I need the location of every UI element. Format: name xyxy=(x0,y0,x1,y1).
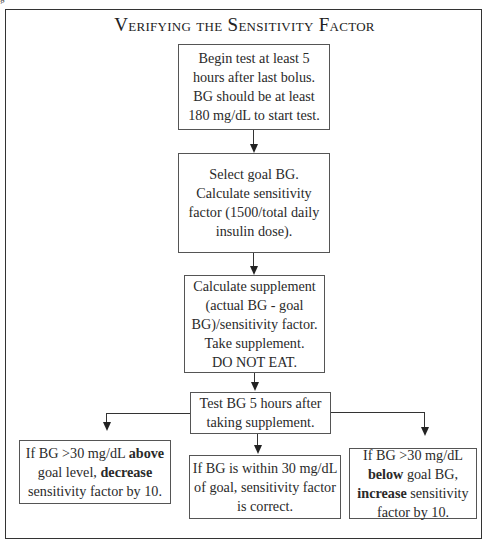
outcome-text: sensitivity xyxy=(407,485,469,501)
step-text-line: Calculate sensitivity xyxy=(189,184,320,203)
step-text-line: Calculate supplement xyxy=(191,277,317,296)
step-text-line: factor (1500/total daily xyxy=(189,203,320,222)
outcome-emphasis: decrease xyxy=(100,464,152,480)
step-text-line: DO NOT EAT. xyxy=(191,353,317,372)
outcome-text-line: increase sensitivity xyxy=(357,484,468,503)
outcome-text-line: below goal BG, xyxy=(357,465,468,484)
outcome-above-goal: If BG >30 mg/dL above goal level, decrea… xyxy=(19,440,171,504)
outcome-text-line: If BG >30 mg/dL xyxy=(357,446,468,465)
step-text-line: Take supplement. xyxy=(191,334,317,353)
step-text-line: (actual BG - goal xyxy=(191,296,317,315)
outcome-text-line: goal level, decrease xyxy=(26,463,164,482)
step-text-line: BG)/sensitivity factor. xyxy=(191,315,317,334)
arrow-down-icon xyxy=(103,422,111,431)
outcome-text: If BG >30 mg/dL xyxy=(26,445,129,461)
step-calculate-supplement: Calculate supplement (actual BG - goal B… xyxy=(184,275,325,373)
connector-line xyxy=(253,130,254,145)
step-text-line: 180 mg/dL to start test. xyxy=(188,106,319,125)
step-text-line: BG should be at least xyxy=(188,87,319,106)
connector-line xyxy=(331,412,425,413)
connector-line xyxy=(106,413,190,414)
outcome-text-line: If BG >30 mg/dL above xyxy=(26,444,164,463)
diagram-title: Verifying the Sensitivity Factor xyxy=(0,14,489,36)
step-text-line: Select goal BG. xyxy=(189,165,320,184)
step-text-line: insulin dose). xyxy=(189,222,320,241)
outcome-text: goal level, xyxy=(38,464,101,480)
connector-line xyxy=(424,412,425,428)
outcome-within-goal: If BG is within 30 mg/dL of goal, sensit… xyxy=(189,455,341,519)
outcome-text-line: sensitivity factor by 10. xyxy=(26,482,164,501)
outcome-text-line: of goal, sensitivity factor xyxy=(193,478,338,497)
step-text-line: Begin test at least 5 xyxy=(188,49,319,68)
outcome-emphasis: above xyxy=(129,445,164,461)
outcome-emphasis: below xyxy=(368,466,403,482)
arrow-down-icon xyxy=(251,382,259,391)
arrow-down-icon xyxy=(421,427,429,436)
outcome-emphasis: increase xyxy=(357,485,406,501)
step-test-bg: Test BG 5 hours after taking supplement. xyxy=(190,392,331,434)
step-text-line: hours after last bolus. xyxy=(188,68,319,87)
arrow-down-icon xyxy=(250,266,258,275)
connector-line xyxy=(253,253,254,267)
step-text-line: Test BG 5 hours after xyxy=(200,394,322,413)
step-begin-test: Begin test at least 5 hours after last b… xyxy=(178,44,330,130)
arrow-down-icon xyxy=(254,445,262,454)
step-select-goal: Select goal BG. Calculate sensitivity fa… xyxy=(178,153,330,253)
outcome-text: goal BG, xyxy=(403,466,458,482)
step-text-line: taking supplement. xyxy=(200,413,322,432)
outcome-text-line: factor by 10. xyxy=(357,503,468,522)
outcome-text-line: If BG is within 30 mg/dL xyxy=(193,459,338,478)
figure-label: g xyxy=(0,0,20,4)
outcome-text-line: is correct. xyxy=(193,497,338,516)
arrow-down-icon xyxy=(250,144,258,153)
outcome-below-goal: If BG >30 mg/dL below goal BG, increase … xyxy=(349,448,477,519)
